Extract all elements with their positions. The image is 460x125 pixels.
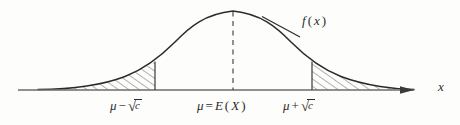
left-tail-region — [40, 62, 155, 90]
right-bound-radical: √c — [301, 99, 315, 114]
chebyshev-density-figure: f(x) x μ−√c μ=E(X) μ+√c — [0, 0, 460, 125]
mean-operator: = — [204, 98, 215, 113]
density-open-paren: ( — [306, 13, 314, 28]
density-arg: x — [314, 13, 320, 28]
mean-open-paren: ( — [223, 98, 231, 113]
density-curve — [38, 11, 414, 90]
right-bound-mu: μ — [283, 98, 290, 113]
left-bound-label: μ−√c — [110, 99, 142, 114]
left-bound-radical: √c — [128, 99, 142, 114]
mean-expectation-letter: E — [215, 98, 223, 113]
right-tail-region — [312, 62, 412, 90]
left-bound-mu: μ — [110, 98, 117, 113]
mean-close-paren: ) — [239, 98, 247, 113]
mean-random-variable: X — [231, 98, 239, 113]
right-bound-label: μ+√c — [283, 99, 315, 114]
mean-label: μ=E(X) — [197, 99, 247, 112]
left-bound-radicand: c — [134, 99, 142, 111]
fx-leader-line — [262, 17, 300, 38]
left-bound-operator: − — [117, 98, 128, 113]
density-function-label: f(x) — [302, 14, 328, 27]
x-axis-label: x — [438, 80, 444, 93]
right-bound-radicand: c — [307, 99, 315, 111]
right-bound-operator: + — [290, 98, 301, 113]
mean-mu: μ — [197, 98, 204, 113]
density-close-paren: ) — [320, 13, 328, 28]
